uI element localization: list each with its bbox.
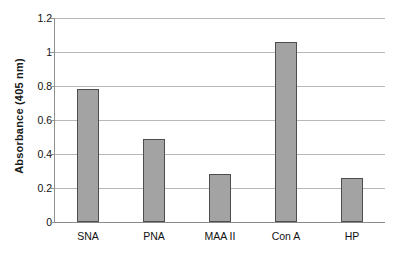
- y-axis-tick-label: 0.4: [26, 149, 52, 160]
- y-axis-tick-mark: [50, 86, 55, 87]
- y-axis-tick-labels: 00.20.40.60.811.2: [26, 0, 52, 259]
- x-axis-tick-label: Con A: [272, 230, 301, 242]
- y-axis-tick-label: 1.2: [26, 13, 52, 24]
- gridline: [55, 18, 385, 19]
- plot-area: [55, 18, 385, 222]
- x-axis-tick-label: MAA II: [205, 230, 236, 242]
- y-axis-tick-mark: [50, 188, 55, 189]
- y-axis-tick-mark: [50, 120, 55, 121]
- x-axis-tick-label: PNA: [143, 230, 165, 242]
- axis-baseline: [55, 222, 385, 223]
- bar[interactable]: [209, 174, 231, 222]
- y-axis-tick-label: 0.8: [26, 81, 52, 92]
- bar[interactable]: [275, 42, 297, 222]
- gridline: [55, 86, 385, 87]
- y-axis-tick-label: 1: [26, 47, 52, 58]
- x-axis-tick-labels: SNAPNAMAA IICon AHP: [55, 230, 385, 250]
- bar[interactable]: [143, 139, 165, 222]
- x-axis-tick-label: SNA: [77, 230, 99, 242]
- y-axis-tick-mark: [50, 18, 55, 19]
- y-axis-tick-label: 0: [26, 217, 52, 228]
- y-axis-tick-label: 0.2: [26, 183, 52, 194]
- bar-chart: Absorbance (405 nm) 00.20.40.60.811.2 SN…: [0, 0, 401, 259]
- y-axis-tick-mark: [50, 52, 55, 53]
- x-axis-tick-label: HP: [345, 230, 360, 242]
- bar[interactable]: [77, 89, 99, 222]
- gridline: [55, 154, 385, 155]
- gridline: [55, 120, 385, 121]
- y-axis-tick-mark: [50, 154, 55, 155]
- gridline: [55, 52, 385, 53]
- y-axis-tick-label: 0.6: [26, 115, 52, 126]
- y-axis-tick-mark: [50, 222, 55, 223]
- bar[interactable]: [341, 178, 363, 222]
